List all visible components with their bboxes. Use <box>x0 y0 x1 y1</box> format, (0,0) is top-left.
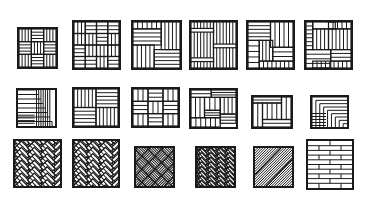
pinwheel-stagger-pattern-icon <box>306 22 351 68</box>
pattern-tile-woven-windmill: Woven windmill <box>246 20 295 70</box>
framed-plank-pattern-icon <box>253 97 291 127</box>
four-block-square-pattern-icon <box>133 22 180 68</box>
pattern-tile-herringbone-chevron: Herringbone chevron <box>195 146 236 188</box>
pattern-tile-pinwheel-stagger: Pinwheel stagger <box>304 20 353 70</box>
pattern-tile-woven-pinwheel: Woven pinwheel <box>189 88 238 129</box>
basket-weave-small-pattern-icon <box>19 29 56 67</box>
pattern-tile-herringbone-double-alt: Double herringbone (alt) <box>72 139 120 188</box>
stepped-diagonal-pattern-icon <box>312 97 347 127</box>
herringbone-chevron-pattern-icon <box>197 148 234 186</box>
pattern-tile-basket-weave-small: Basket weave (small) <box>17 27 58 69</box>
pattern-tile-four-block-square: Four block square <box>131 20 182 70</box>
woven-windmill-pattern-icon <box>248 22 293 68</box>
pattern-tile-four-square-checker: Four square checker <box>72 87 120 128</box>
pattern-tile-interlaced-weave: Interlaced weave <box>72 20 121 70</box>
pattern-tile-staggered-ladder: Staggered ladder <box>16 88 57 128</box>
brick-bond-pattern-icon <box>308 141 352 188</box>
sheet-title: Parquet floor patterns <box>0 0 1 1</box>
pattern-tile-diagonal-strip: Diagonal strip <box>253 146 294 188</box>
diagonal-basket-pattern-icon <box>136 148 173 186</box>
pattern-tile-diagonal-basket: Diagonal basket weave <box>134 146 175 188</box>
pattern-tile-brick-bond: Brick bond planks <box>306 139 354 190</box>
pattern-tile-basket-weave-large: Basket weave (large) <box>131 87 180 128</box>
basket-weave-large-pattern-icon <box>133 89 178 126</box>
pattern-tile-framed-plank: Framed plank <box>251 95 293 129</box>
staggered-ladder-pattern-icon <box>18 90 55 126</box>
herringbone-double-alt-pattern-icon <box>74 141 118 186</box>
herringbone-double-pattern-icon <box>15 141 60 186</box>
pattern-tile-herringbone-double: Double herringbone <box>13 139 62 188</box>
diagonal-strip-pattern-icon <box>255 148 292 186</box>
pattern-tile-stepped-diagonal: Stepped diagonal <box>310 95 349 129</box>
pattern-tile-vertical-plank-bands: Vertical plank with bands <box>189 20 238 70</box>
vertical-plank-bands-pattern-icon <box>191 22 236 68</box>
four-square-checker-pattern-icon <box>74 89 118 126</box>
woven-pinwheel-pattern-icon <box>191 90 236 127</box>
interlaced-weave-pattern-icon <box>74 22 119 68</box>
